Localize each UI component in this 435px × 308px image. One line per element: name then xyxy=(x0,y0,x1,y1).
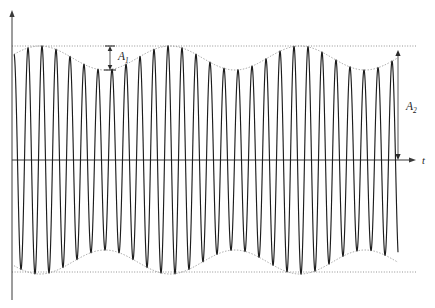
a2-arrowhead-bottom xyxy=(395,154,400,160)
waveform-plot: A1 A2 t xyxy=(0,0,435,308)
lower-envelope-curve xyxy=(14,250,398,274)
upper-envelope-curve xyxy=(14,46,398,70)
axis-labels-group: t xyxy=(422,155,426,166)
a2-arrowhead-top xyxy=(395,50,400,56)
time-axis-label: t xyxy=(422,155,426,166)
a1-label: A1 xyxy=(117,50,129,65)
amplitude-axis-arrowhead xyxy=(9,10,14,17)
time-axis-arrowhead xyxy=(409,157,416,162)
beat-waveform-figure: A1 A2 t xyxy=(0,0,435,308)
axes-group xyxy=(9,10,416,300)
a2-label: A2 xyxy=(405,100,417,115)
annotation-a2: A2 xyxy=(395,50,417,160)
a1-arrowhead-top xyxy=(108,46,113,51)
